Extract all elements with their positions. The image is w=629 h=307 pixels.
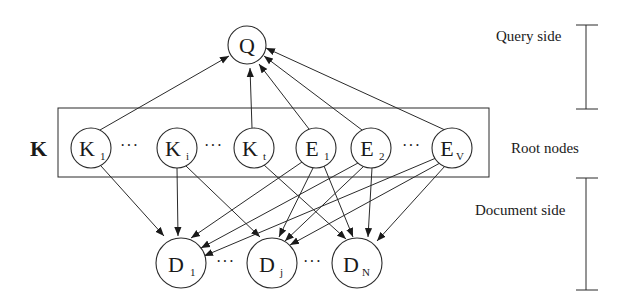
node-e2: E 2 (351, 128, 391, 168)
edge-ev-d1 (204, 158, 436, 256)
edge-kt-q (250, 68, 252, 128)
node-ki: K i (157, 128, 197, 168)
node-kt-label: K (242, 136, 258, 161)
node-k1: K 1 (71, 128, 111, 168)
node-dj: D j (247, 238, 297, 288)
node-k1-label: K (79, 136, 95, 161)
edge-ev-dj (290, 163, 440, 245)
set-label-k: K (30, 136, 47, 161)
node-ev: E V (432, 128, 472, 168)
ellipsis-e2-ev: ··· (402, 137, 421, 154)
node-e1-label: E (305, 136, 318, 161)
root-nodes-label: Root nodes (511, 140, 579, 156)
node-kt-sub: t (263, 150, 266, 162)
edge-e1-d1 (191, 162, 302, 238)
node-e2-label: E (360, 136, 373, 161)
node-d1: D 1 (156, 238, 206, 288)
edge-k1-q (100, 56, 229, 130)
query-side-bracket (576, 25, 598, 109)
edge-ki-d1 (177, 168, 178, 236)
edge-e2-q (264, 56, 362, 130)
query-side-label: Query side (496, 28, 562, 44)
node-e1: E 1 (296, 128, 336, 168)
node-k1-sub: 1 (100, 150, 106, 162)
node-dj-sub: j (279, 266, 283, 278)
node-kt: K t (234, 128, 274, 168)
node-d1-label: D (168, 252, 184, 277)
edge-e1-q (259, 64, 309, 129)
node-ev-sub: V (456, 150, 464, 162)
node-e2-sub: 2 (379, 150, 385, 162)
ellipsis-k1-ki: ··· (120, 137, 139, 154)
node-q-label: Q (239, 33, 255, 58)
inference-network-diagram: K Q K 1 ··· K i ··· K t E 1 E 2 ··· E V … (0, 0, 629, 307)
query-edges (100, 48, 445, 130)
node-e1-sub: 1 (324, 150, 330, 162)
edge-ev-q (266, 48, 445, 130)
ellipsis-d1-dj: ··· (216, 253, 235, 270)
node-ki-sub: i (186, 150, 189, 162)
node-dn: D N (332, 238, 382, 288)
document-side-bracket (576, 178, 598, 290)
node-dn-sub: N (362, 266, 370, 278)
ellipsis-dj-dn: ··· (303, 253, 322, 270)
node-dj-label: D (259, 252, 275, 277)
node-dn-label: D (343, 252, 359, 277)
node-d1-sub: 1 (190, 266, 196, 278)
ellipsis-ki-kt: ··· (204, 137, 223, 154)
document-side-label: Document side (475, 202, 566, 218)
node-ki-label: K (165, 136, 181, 161)
node-ev-label: E (440, 136, 453, 161)
node-q: Q (228, 26, 266, 64)
